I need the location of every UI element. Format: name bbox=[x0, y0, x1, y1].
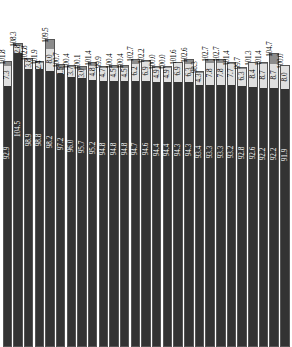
bar-base-label: 93.4 bbox=[195, 145, 203, 160]
bar-middle-label: 8.7 bbox=[270, 70, 278, 81]
bar-middle-label: 4.7 bbox=[99, 69, 107, 80]
bar-base-label: 98.8 bbox=[35, 134, 43, 149]
bar-segment-middle: 3.0 bbox=[77, 70, 86, 78]
bar-column[interactable]: 102.26.994.6 bbox=[141, 0, 150, 347]
bar-total-label: 102.6 bbox=[182, 47, 189, 62]
bar-segment-base: 94.8 bbox=[109, 81, 118, 347]
bar-segment-base: 92.9 bbox=[3, 86, 12, 347]
bar-column[interactable]: 99.94.794.8 bbox=[99, 0, 108, 347]
bar-segment-base: 98.8 bbox=[35, 69, 44, 347]
bar-segment-middle: 4.9 bbox=[152, 68, 161, 82]
bar-total-label: 104.7 bbox=[267, 41, 274, 56]
bar-middle-label: 4.5 bbox=[110, 69, 118, 80]
bar-middle-label: 6.3 bbox=[238, 72, 246, 83]
bar-segment-base: 94.7 bbox=[131, 81, 140, 347]
bar-base-label: 94.3 bbox=[185, 143, 193, 158]
bar-segment-base: 94.3 bbox=[173, 82, 182, 347]
bar-total-label: 98.3 bbox=[192, 61, 199, 73]
bar-column[interactable]: 100.04.994.4 bbox=[152, 0, 161, 347]
bar-segment-middle: 4.3 bbox=[195, 73, 204, 85]
bar-segment-base: 93.2 bbox=[227, 85, 236, 347]
bar-base-label: 94.8 bbox=[110, 142, 118, 157]
bar-base-label: 94.3 bbox=[174, 143, 182, 158]
bar-column[interactable]: 101.44.895.2 bbox=[88, 0, 97, 347]
bar-base-label: 95.7 bbox=[78, 141, 86, 156]
bar-base-label: 94.4 bbox=[153, 143, 161, 158]
bar-total-label: 100.4 bbox=[118, 53, 125, 68]
bar-column[interactable]: 100.43.796.0 bbox=[67, 0, 76, 347]
bar-base-label: 94.4 bbox=[163, 143, 171, 158]
bar-segment-base: 94.4 bbox=[163, 82, 172, 347]
bar-middle-label: 4.3 bbox=[195, 73, 203, 84]
bar-base-label: 92.8 bbox=[238, 147, 246, 162]
bar-middle-label: 7.3 bbox=[3, 70, 11, 81]
bar-base-label: 93.2 bbox=[227, 146, 235, 161]
bar-segment-middle: 6.2 bbox=[131, 64, 140, 81]
bar-middle-label: 8.4 bbox=[249, 70, 257, 81]
bar-middle-label: 7.8 bbox=[217, 68, 225, 79]
bar-middle-label: 4.9 bbox=[163, 69, 171, 80]
bar-base-label: 94.8 bbox=[121, 142, 129, 157]
bar-base-label: 93.3 bbox=[206, 146, 214, 161]
bar-column[interactable]: 100.44.594.8 bbox=[109, 0, 118, 347]
bar-segment-base: 92.2 bbox=[269, 88, 278, 347]
bar-base-label: 92.6 bbox=[249, 147, 257, 162]
bar-base-label: 94.8 bbox=[99, 142, 107, 157]
bar-base-label: 96.0 bbox=[67, 140, 75, 155]
bar-segment-middle: 4.7 bbox=[99, 68, 108, 81]
bar-total-label: 102.7 bbox=[214, 47, 221, 62]
bar-segment-base: 91.9 bbox=[280, 89, 289, 347]
bar-column[interactable]: 101.87.392.9 bbox=[3, 0, 12, 347]
bar-column[interactable]: 101.92.498.8 bbox=[35, 0, 44, 347]
bar-segment-base: 95.7 bbox=[77, 78, 86, 347]
bar-segment-base: 94.3 bbox=[184, 82, 193, 347]
bar-middle-label: 6.2 bbox=[131, 67, 139, 78]
bar-total-label: 99.7 bbox=[235, 57, 242, 69]
bar-segment-base: 92.6 bbox=[248, 87, 257, 347]
bar-base-label: 91.9 bbox=[281, 148, 289, 163]
bar-middle-label: 7.8 bbox=[206, 68, 214, 79]
bar-segment-middle: 4.5 bbox=[120, 68, 129, 81]
bar-middle-label: 8.0 bbox=[281, 72, 289, 83]
bar-segment-middle: 4.5 bbox=[109, 68, 118, 81]
stacked-bar-chart: 101.87.392.9108.32.8104.5102.83.898.9101… bbox=[0, 0, 292, 347]
bar-middle-label: 7.7 bbox=[227, 69, 235, 80]
bar-middle-label: 8.7 bbox=[259, 70, 267, 81]
bar-base-label: 93.3 bbox=[217, 146, 225, 161]
bar-segment-base: 94.8 bbox=[99, 81, 108, 347]
bar-segment-middle: 6.3 bbox=[237, 69, 246, 87]
plot-area: 101.87.392.9108.32.8104.5102.83.898.9101… bbox=[0, 0, 292, 347]
bar-segment-middle: 6.9 bbox=[173, 63, 182, 82]
bar-segment-base: 104.5 bbox=[13, 53, 22, 347]
bar-segment-base: 98.2 bbox=[45, 71, 54, 347]
bar-segment-middle: 4.9 bbox=[163, 68, 172, 82]
bar-segment-base: 92.2 bbox=[259, 88, 268, 347]
bar-total-label: 101.4 bbox=[86, 51, 93, 66]
bar-base-label: 97.2 bbox=[57, 137, 65, 152]
bar-segment-base: 92.8 bbox=[237, 86, 246, 347]
bar-middle-label: 6.9 bbox=[174, 67, 182, 78]
bar-column[interactable]: 100.08.091.9 bbox=[280, 0, 289, 347]
bar-base-label: 94.7 bbox=[131, 143, 139, 158]
bar-total-label: 109.5 bbox=[43, 28, 50, 43]
bar-segment-top: 109.5 bbox=[45, 39, 54, 48]
bar-column[interactable]: 104.78.792.2 bbox=[269, 0, 278, 347]
bar-base-label: 92.2 bbox=[259, 148, 267, 163]
bar-column[interactable]: 101.47.793.2 bbox=[227, 0, 236, 347]
bar-column[interactable]: 100.71.597.2 bbox=[56, 0, 65, 347]
bar-base-label: 94.6 bbox=[142, 143, 150, 158]
bar-middle-label: 4.8 bbox=[89, 67, 97, 78]
bar-segment-base: 95.2 bbox=[88, 80, 97, 347]
bar-segment-base: 94.6 bbox=[141, 81, 150, 347]
bar-segment-base: 93.3 bbox=[205, 85, 214, 347]
bar-total-label: 99.9 bbox=[96, 57, 103, 69]
bar-total-label: 102.7 bbox=[128, 47, 135, 62]
bar-segment-middle: 4.8 bbox=[88, 66, 97, 79]
bar-total-label: 101.8 bbox=[0, 49, 7, 64]
bar-middle-label: 4.5 bbox=[121, 69, 129, 80]
bar-column[interactable]: 102.66.394.3 bbox=[184, 0, 193, 347]
bar-base-label: 98.9 bbox=[25, 134, 33, 149]
bar-segment-middle: 7.3 bbox=[3, 66, 12, 87]
bar-base-label: 92.9 bbox=[3, 146, 11, 161]
bar-segment-middle: 8.0 bbox=[280, 66, 289, 88]
